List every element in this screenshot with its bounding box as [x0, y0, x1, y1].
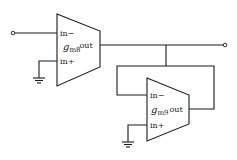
output-terminal	[223, 43, 227, 47]
circuit-diagram: in− in+ out gm8 in− in+ out gm9	[0, 0, 237, 160]
gm8-in-plus-label: in+	[60, 57, 74, 66]
gm9-inplus-wire	[128, 125, 147, 142]
gm8-inplus-wire	[39, 61, 57, 78]
gm9-in-minus-label: in−	[150, 91, 164, 100]
gm9-in-plus-label: in+	[150, 121, 164, 130]
input-terminal	[11, 31, 15, 35]
amplifier-gm8: in− in+ out gm8	[57, 14, 100, 86]
ground-icon	[122, 142, 134, 147]
amplifier-gm9: in− in+ out gm9	[147, 78, 189, 141]
gm8-in-minus-label: in−	[60, 29, 74, 38]
ground-icon	[33, 78, 45, 83]
gm9-out-label: out	[169, 105, 183, 114]
gm8-out-label: out	[79, 41, 93, 50]
